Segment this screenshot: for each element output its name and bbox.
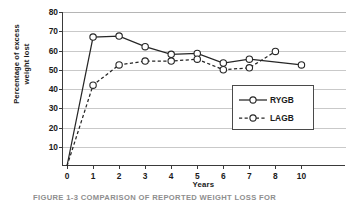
y-tick-label: 70 bbox=[49, 26, 58, 36]
x-axis-title: Years bbox=[62, 180, 345, 189]
data-point-rygb bbox=[168, 51, 174, 57]
legend-label-rygb: RYGB bbox=[270, 95, 294, 105]
data-point-lagb bbox=[142, 58, 148, 64]
legend-label-lagb: LAGB bbox=[270, 113, 294, 123]
legend-symbol-dashed-line bbox=[238, 112, 268, 124]
data-point-lagb bbox=[272, 48, 278, 54]
y-tick-label: 20 bbox=[49, 123, 58, 133]
data-point-lagb bbox=[168, 58, 174, 64]
data-point-lagb bbox=[116, 62, 122, 68]
data-point-rygb bbox=[220, 60, 226, 66]
chart-legend: RYGB LAGB bbox=[232, 85, 314, 130]
y-axis-title: Percentage of excess weight lost bbox=[7, 0, 37, 134]
plot-area: 1020304050607080 01234567810 RYGB LAGB bbox=[62, 12, 345, 166]
data-point-rygb bbox=[246, 56, 252, 62]
data-point-rygb bbox=[116, 33, 122, 39]
legend-item-rygb: RYGB bbox=[233, 91, 313, 109]
y-tick-label: 80 bbox=[49, 7, 58, 17]
data-point-lagb bbox=[194, 56, 200, 62]
legend-item-lagb: LAGB bbox=[233, 109, 313, 127]
legend-symbol-solid-line bbox=[238, 94, 268, 106]
figure-container: Percentage of excess weight lost 1020304… bbox=[0, 0, 348, 201]
y-tick-label: 50 bbox=[49, 65, 58, 75]
figure-caption: FIGURE 1-3 COMPARISON OF REPORTED WEIGHT… bbox=[33, 193, 318, 201]
y-tick-label: 40 bbox=[49, 84, 58, 94]
y-axis-title-line-2: weight lost bbox=[22, 44, 32, 85]
data-point-rygb bbox=[90, 34, 96, 40]
y-axis-title-line-1: Percentage of excess bbox=[12, 24, 22, 104]
data-point-rygb bbox=[142, 43, 148, 49]
data-point-rygb bbox=[298, 62, 304, 68]
y-tick-label: 10 bbox=[49, 142, 58, 152]
y-tick-label: 30 bbox=[49, 103, 58, 113]
data-point-lagb bbox=[90, 82, 96, 88]
data-point-lagb bbox=[246, 65, 252, 71]
data-point-lagb bbox=[220, 67, 226, 73]
y-tick-label: 60 bbox=[49, 46, 58, 56]
